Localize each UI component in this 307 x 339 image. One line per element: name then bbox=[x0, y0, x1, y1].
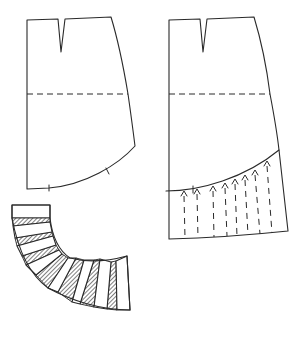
skirt-piece-basic bbox=[27, 17, 135, 191]
flounce-piece-spread bbox=[12, 205, 130, 310]
skirt-piece-slashed bbox=[166, 17, 288, 239]
yoke-style-line bbox=[166, 150, 279, 191]
skirt-basic-outline bbox=[27, 17, 135, 189]
skirt-slashed-outline bbox=[169, 17, 288, 239]
flounce-top-rect bbox=[12, 205, 50, 218]
pattern-diagram-canvas bbox=[0, 0, 307, 339]
slash-lines bbox=[184, 166, 272, 238]
